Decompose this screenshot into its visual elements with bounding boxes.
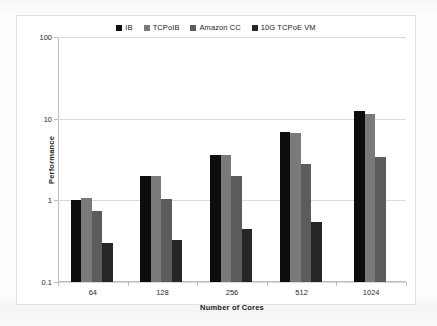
chart-container: IB TCPoIB Amazon CC 10G TCPoE VM 0.11101… bbox=[16, 15, 416, 305]
legend-label-tcpoib: TCPoIB bbox=[153, 23, 180, 32]
x-tick-label: 64 bbox=[89, 288, 97, 297]
bar bbox=[290, 133, 301, 282]
bar bbox=[71, 200, 82, 282]
legend-swatch-tcpoib bbox=[144, 25, 150, 31]
bar bbox=[92, 211, 103, 282]
y-tick-label: 10 bbox=[44, 114, 52, 123]
legend-label-ib: IB bbox=[125, 23, 132, 32]
bar bbox=[210, 155, 221, 282]
plot-area: 0.1110100 641282565121024 Performance Nu… bbox=[58, 37, 406, 282]
legend-swatch-10g-tcpoe-vm bbox=[252, 25, 258, 31]
chart-legend: IB TCPoIB Amazon CC 10G TCPoE VM bbox=[17, 23, 415, 32]
bar bbox=[354, 111, 365, 282]
bar bbox=[231, 176, 242, 282]
bar bbox=[365, 114, 376, 282]
x-tick-mark bbox=[267, 282, 268, 286]
bar bbox=[221, 155, 232, 282]
legend-label-10g-tcpoe-vm: 10G TCPoE VM bbox=[261, 23, 316, 32]
x-tick-mark bbox=[128, 282, 129, 286]
y-tick-label: 100 bbox=[39, 33, 52, 42]
legend-swatch-ib bbox=[116, 25, 122, 31]
page-top-shading bbox=[0, 0, 437, 16]
bar bbox=[140, 176, 151, 282]
bar bbox=[301, 164, 312, 282]
x-tick-label: 512 bbox=[295, 288, 308, 297]
bar bbox=[311, 222, 322, 282]
legend-item: TCPoIB bbox=[144, 23, 180, 32]
x-tick-mark bbox=[406, 282, 407, 286]
x-tick-mark bbox=[58, 282, 59, 286]
bar bbox=[102, 243, 113, 282]
x-tick-mark bbox=[197, 282, 198, 286]
legend-item: IB bbox=[116, 23, 132, 32]
x-tick-label: 1024 bbox=[363, 288, 380, 297]
bar bbox=[81, 198, 92, 282]
legend-item: Amazon CC bbox=[190, 23, 240, 32]
bar bbox=[280, 132, 291, 282]
y-tick-label: 1 bbox=[48, 196, 52, 205]
bar bbox=[375, 157, 386, 282]
x-tick-label: 256 bbox=[226, 288, 239, 297]
bar bbox=[242, 229, 253, 282]
bar bbox=[172, 240, 183, 282]
legend-swatch-amazon-cc bbox=[190, 25, 196, 31]
legend-item: 10G TCPoE VM bbox=[252, 23, 316, 32]
y-axis-title: Performance bbox=[47, 135, 56, 183]
bars-layer bbox=[58, 37, 406, 282]
x-tick-label: 128 bbox=[156, 288, 169, 297]
x-tick-mark bbox=[336, 282, 337, 286]
bar bbox=[161, 199, 172, 282]
bar bbox=[151, 176, 162, 282]
x-axis-title: Number of Cores bbox=[58, 303, 406, 312]
gridline bbox=[58, 282, 406, 283]
legend-label-amazon-cc: Amazon CC bbox=[199, 23, 240, 32]
y-tick-label: 0.1 bbox=[42, 278, 52, 287]
